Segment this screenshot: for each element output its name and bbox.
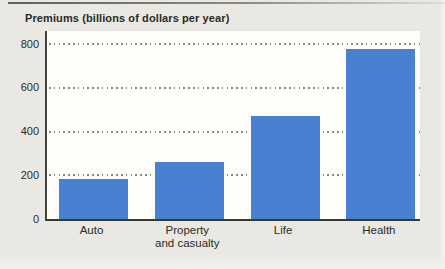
y-axis-label-400: 400: [0, 125, 39, 137]
x-axis-label-life: Life: [235, 224, 331, 237]
y-axis-label-600: 600: [0, 81, 39, 93]
y-axis-label-800: 800: [0, 38, 39, 50]
figure-top-rule: [8, 2, 445, 4]
x-axis-label-line: Life: [235, 224, 331, 237]
bar-property-and-casualty: [155, 162, 224, 219]
bar-life: [251, 116, 320, 219]
x-axis-label-line: Property: [139, 224, 235, 237]
page-margin-bottom: [0, 255, 445, 269]
y-axis-label-200: 200: [0, 169, 39, 181]
plot-area: [45, 31, 420, 221]
x-axis-label-line: Health: [331, 224, 427, 237]
scanned-figure: Premiums (billions of dollars per year) …: [0, 0, 445, 269]
x-axis-label-health: Health: [331, 224, 427, 237]
bar-health: [346, 49, 415, 219]
chart-title: Premiums (billions of dollars per year): [25, 12, 229, 24]
page-margin-right: [439, 0, 445, 269]
x-axis-label-auto: Auto: [44, 224, 140, 237]
x-axis-label-line: and casualty: [139, 237, 235, 250]
y-axis-label-0: 0: [0, 213, 39, 225]
x-axis-label-line: Auto: [44, 224, 140, 237]
bar-auto: [59, 179, 128, 219]
gridline-800: [49, 43, 420, 45]
x-axis-label-property-and-casualty: Propertyand casualty: [139, 224, 235, 250]
